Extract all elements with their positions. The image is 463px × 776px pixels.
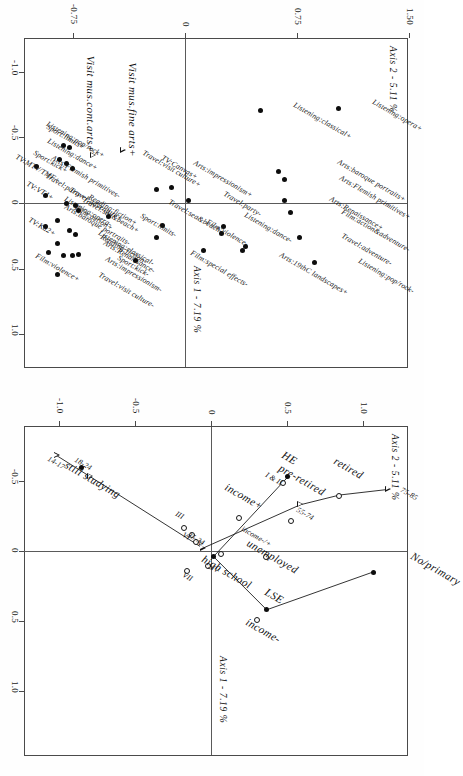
axis-label-x-left: Axis 1 - 7.19 % (192, 266, 202, 333)
point-marker (154, 235, 159, 240)
tick-y (363, 421, 364, 426)
tick-y (297, 33, 298, 38)
tick-label-x: 1.0 (10, 681, 20, 693)
axis-label-y-left: Axis 2 - 5.11 % (388, 46, 398, 113)
point-marker (282, 198, 287, 203)
point-marker (336, 106, 341, 111)
hollow-point-marker (236, 515, 242, 521)
point-label: No/primary (409, 550, 463, 588)
tick-label-y: 0 (207, 410, 217, 415)
tick-y (73, 33, 74, 38)
triangle-marker (120, 147, 126, 153)
tick-label-y: 0.75 (293, 8, 303, 25)
tick-label-x: -0.5 (10, 469, 20, 484)
point-marker (76, 252, 81, 257)
tick-y (287, 421, 288, 426)
axis-label-y-right: Axis 2 - 5.11 % (390, 434, 400, 501)
hollow-point-marker (218, 551, 224, 557)
point-marker (169, 185, 174, 190)
tick-label-y: -1.0 (55, 398, 65, 413)
tick-label-x: 1.0 (10, 324, 20, 336)
tick-y (59, 421, 60, 426)
triangle-marker (385, 486, 391, 492)
point-marker (276, 169, 281, 174)
tick-y (185, 33, 186, 38)
axis-label-x-right: Axis 1 - 7.19 % (218, 656, 228, 723)
point-marker (55, 218, 60, 223)
tick-label-y: 0 (181, 22, 191, 27)
x-axis-zero-right (211, 427, 212, 755)
tick-label-y: -0.5 (131, 398, 141, 413)
point-marker (288, 210, 293, 215)
y-axis-zero-right (24, 551, 407, 552)
point-marker (282, 177, 287, 182)
tick-y (409, 33, 410, 38)
point-label: Visit mus.cont.arts+ (85, 56, 97, 153)
tick-label-y: 1.50 (405, 8, 415, 25)
tick-label-x: 0.5 (10, 259, 20, 271)
point-marker (312, 260, 317, 265)
tick-label-x: -0.5 (10, 125, 20, 140)
tick-label-y: -0.75 (69, 4, 79, 24)
hollow-point-marker (336, 493, 342, 499)
tick-y (211, 421, 212, 426)
panel-modalities: -1.0 -0.5 0 0.5 1.0 -0.75 0 0.75 1.50 Ax… (0, 0, 424, 388)
hollow-point-marker (288, 518, 294, 524)
tick-label-x: 0 (10, 200, 20, 205)
tick-label-y: 1.0 (359, 402, 369, 414)
tick-label-y: 0.5 (283, 402, 293, 414)
tick-label-x: 0.5 (10, 611, 20, 623)
point-marker (297, 235, 302, 240)
tick-y (135, 421, 136, 426)
tick-label-x: -1.0 (10, 60, 20, 75)
tick-label-x: 0 (10, 548, 20, 553)
panel-individuals: -0.5 0 0.5 1.0 -1.0 -0.5 0 0.5 1.0 Axis … (0, 388, 424, 776)
point-marker (371, 570, 376, 575)
point-label: Visit mus.fine arts+ (127, 62, 139, 156)
